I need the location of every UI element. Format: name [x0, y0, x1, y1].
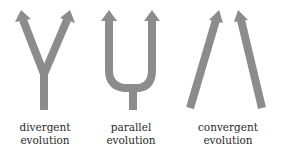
- parallel-label-line2: evolution: [86, 134, 176, 147]
- convergent-label: convergent evolution: [183, 121, 273, 147]
- parallel-arrows-icon: [109, 20, 152, 110]
- parallel-label-line1: parallel: [86, 121, 176, 134]
- convergent-label-line1: convergent: [183, 121, 273, 134]
- convergent-label-line2: evolution: [183, 134, 273, 147]
- divergent-label-line2: evolution: [0, 134, 90, 147]
- divergent-label-line1: divergent: [0, 121, 90, 134]
- convergent-arrows-icon: [190, 20, 262, 108]
- divergent-arrows-icon: [23, 20, 67, 110]
- divergent-label: divergent evolution: [0, 121, 90, 147]
- parallel-label: parallel evolution: [86, 121, 176, 147]
